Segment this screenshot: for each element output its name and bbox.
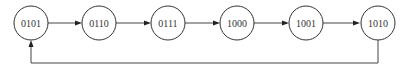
state-0111: 0111 bbox=[151, 6, 185, 40]
state-0110: 0110 bbox=[82, 6, 116, 40]
state-label: 0110 bbox=[89, 18, 109, 29]
state-label: 1000 bbox=[227, 18, 247, 29]
feedback-transition-1010-0101 bbox=[29, 40, 379, 63]
state-label: 1001 bbox=[296, 18, 316, 29]
state-label: 0111 bbox=[158, 18, 177, 29]
state-1001: 1001 bbox=[289, 6, 323, 40]
arrowhead-icon bbox=[75, 21, 82, 26]
state-label: 1010 bbox=[368, 18, 388, 29]
arrowhead-icon bbox=[353, 21, 360, 26]
feedback-edge bbox=[31, 40, 378, 63]
state-diagram: 0101 0110 0111 1000 1001 1010 bbox=[0, 0, 403, 73]
state-1010: 1010 bbox=[361, 6, 395, 40]
state-label: 0101 bbox=[21, 18, 41, 29]
state-0101: 0101 bbox=[14, 6, 48, 40]
arrowhead-icon bbox=[282, 21, 289, 26]
arrowhead-up-icon bbox=[29, 40, 34, 47]
arrowhead-icon bbox=[213, 21, 220, 26]
state-1000: 1000 bbox=[220, 6, 254, 40]
arrowhead-icon bbox=[144, 21, 151, 26]
